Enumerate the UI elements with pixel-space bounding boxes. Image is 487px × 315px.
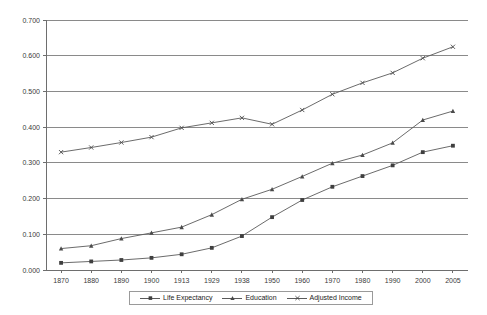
data-point-marker	[361, 174, 365, 178]
axes-group	[46, 20, 468, 270]
x-tick-label: 2000	[415, 277, 431, 284]
gridlines-group	[46, 20, 468, 270]
data-point-marker	[119, 258, 123, 262]
data-point-marker	[391, 163, 395, 167]
y-tick-label: 0.200	[22, 195, 40, 202]
y-tick-label: 0.500	[22, 88, 40, 95]
data-point-marker	[421, 150, 425, 154]
data-point-marker	[180, 252, 184, 256]
data-point-marker	[89, 260, 93, 264]
data-point-marker	[300, 174, 304, 178]
legend-marker-triangle-icon	[222, 294, 242, 302]
data-point-marker	[451, 45, 455, 49]
x-tick-label: 1938	[234, 277, 250, 284]
legend-item-life-expectancy: Life Expectancy	[140, 294, 212, 302]
series-line-adjusted-income	[61, 47, 453, 152]
x-tick-label: 1950	[264, 277, 280, 284]
x-tick-label: 1900	[144, 277, 160, 284]
data-point-marker	[210, 212, 214, 216]
y-tick-label: 0.700	[22, 17, 40, 24]
data-point-marker	[270, 215, 274, 219]
x-tick-label: 1980	[355, 277, 371, 284]
data-point-marker	[300, 108, 304, 112]
data-point-marker	[360, 81, 364, 85]
legend-marker-square-icon	[140, 294, 160, 302]
data-point-marker	[421, 56, 425, 60]
data-point-marker	[330, 185, 334, 189]
y-axis-ticks-group: 0.0000.1000.2000.3000.4000.5000.6000.700	[22, 17, 46, 274]
data-point-marker	[270, 187, 274, 191]
x-tick-label: 1870	[53, 277, 69, 284]
legend-label: Education	[245, 294, 276, 302]
x-tick-label: 1929	[204, 277, 220, 284]
y-tick-label: 0.600	[22, 52, 40, 59]
legend-item-education: Education	[222, 294, 276, 302]
x-tick-label: 2005	[445, 277, 461, 284]
y-tick-label: 0.400	[22, 124, 40, 131]
series-group	[59, 45, 455, 265]
data-point-marker	[391, 71, 395, 75]
y-tick-label: 0.300	[22, 159, 40, 166]
legend-marker-x-icon	[287, 294, 307, 302]
data-point-marker	[150, 256, 154, 260]
chart-canvas: 0.0000.1000.2000.3000.4000.5000.6000.700…	[0, 0, 487, 287]
x-axis-ticks-group: 1870188018901900191319291938195019601970…	[53, 270, 461, 284]
data-point-marker	[300, 198, 304, 202]
y-tick-label: 0.000	[22, 267, 40, 274]
x-tick-label: 1990	[385, 277, 401, 284]
legend-label: Life Expectancy	[163, 294, 212, 302]
data-point-marker	[59, 261, 63, 265]
data-point-marker	[330, 92, 334, 96]
chart-legend: Life Expectancy Education Adjusted Incom…	[129, 291, 373, 305]
line-chart: 0.0000.1000.2000.3000.4000.5000.6000.700…	[0, 0, 487, 315]
x-tick-label: 1960	[294, 277, 310, 284]
legend-label: Adjusted Income	[310, 294, 362, 302]
x-tick-label: 1880	[83, 277, 99, 284]
x-tick-label: 1970	[325, 277, 341, 284]
y-tick-label: 0.100	[22, 231, 40, 238]
x-tick-label: 1913	[174, 277, 190, 284]
plot-area: 0.0000.1000.2000.3000.4000.5000.6000.700…	[0, 0, 487, 287]
data-point-marker	[451, 109, 455, 113]
data-point-marker	[240, 234, 244, 238]
x-tick-label: 1890	[114, 277, 130, 284]
legend-item-adjusted-income: Adjusted Income	[287, 294, 362, 302]
data-point-marker	[451, 144, 455, 148]
data-point-marker	[210, 246, 214, 250]
series-line-education	[61, 111, 453, 249]
